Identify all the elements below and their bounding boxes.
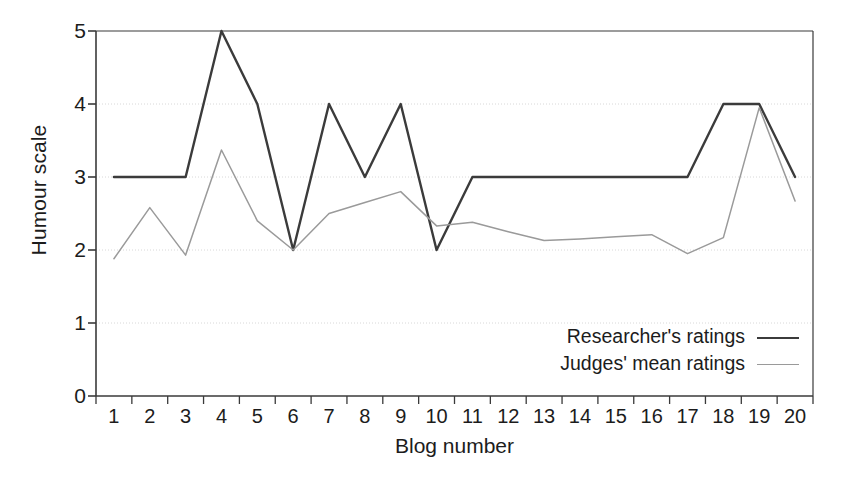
humour-scale-line-chart: 012345 Humour scale 12345678910111213141… [0,0,850,478]
y-tick-label-3: 3 [52,166,86,187]
x-tick-label-1: 1 [108,406,119,426]
series-line-judges [114,108,795,259]
x-axis-title: Blog number [96,434,813,458]
x-axis-tick-labels: 1234567891011121314151617181920 [0,400,850,428]
x-tick-label-6: 6 [288,406,299,426]
x-tick-label-10: 10 [425,406,447,426]
y-tick-label-5: 5 [52,20,86,41]
legend-item-judges: Judges' mean ratings [527,350,799,377]
y-tick-label-1: 1 [52,312,86,333]
legend: Researcher's ratings Judges' mean rating… [527,323,799,377]
x-tick-label-7: 7 [323,406,334,426]
x-tick-label-14: 14 [569,406,591,426]
legend-label-judges: Judges' mean ratings [560,352,745,375]
x-tick-label-18: 18 [712,406,734,426]
legend-swatch-researcher-line [757,332,799,342]
x-tick-label-4: 4 [216,406,227,426]
x-tick-label-13: 13 [533,406,555,426]
x-tick-label-16: 16 [641,406,663,426]
x-tick-label-19: 19 [748,406,770,426]
legend-item-researcher: Researcher's ratings [527,323,799,350]
x-tick-label-11: 11 [462,406,483,426]
x-tick-label-5: 5 [252,406,263,426]
x-tick-label-12: 12 [497,406,519,426]
x-tick-label-20: 20 [784,406,806,426]
x-tick-label-9: 9 [395,406,406,426]
y-axis-title: Humour scale [22,0,56,400]
x-tick-label-8: 8 [359,406,370,426]
series-line-researcher [114,31,795,250]
x-tick-label-2: 2 [144,406,155,426]
legend-label-researcher: Researcher's ratings [567,325,745,348]
y-tick-label-2: 2 [52,239,86,260]
x-tick-label-3: 3 [180,406,191,426]
x-tick-label-17: 17 [676,406,698,426]
legend-swatch-judges-line [757,359,799,369]
x-tick-label-15: 15 [605,406,627,426]
y-tick-label-4: 4 [52,93,86,114]
